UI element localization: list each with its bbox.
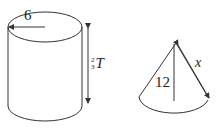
geometry-diagram [0, 0, 216, 130]
cylinder-bottom-arc [8, 106, 82, 121]
cylinder [8, 12, 88, 121]
slant-arrow [178, 45, 209, 98]
height-fraction: 23 [91, 57, 95, 70]
fraction-denominator: 3 [91, 63, 95, 71]
height-variable: T [96, 55, 104, 71]
cylinder-height-label: 23T [91, 56, 104, 71]
cone [139, 43, 209, 113]
cone-height-label: 12 [155, 75, 170, 90]
cone-slant-label: x [195, 56, 201, 70]
radius-label: 6 [24, 8, 32, 23]
